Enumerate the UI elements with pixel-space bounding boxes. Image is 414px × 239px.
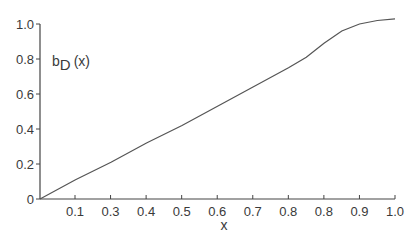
data-line: [40, 19, 395, 199]
x-axis-label: x: [221, 217, 228, 233]
x-tick-label: 0.8: [279, 204, 297, 219]
y-label-sub: D: [60, 56, 71, 73]
x-tick-label: 0.9: [350, 204, 368, 219]
y-axis: 00.20.40.60.81.0: [16, 17, 40, 207]
x-tick-label: 0.7: [244, 204, 262, 219]
y-tick-label: 0.6: [16, 87, 34, 102]
x-axis: 0.10.30.40.50.60.70.80.80.91.0: [40, 195, 404, 219]
chart: 00.20.40.60.81.0 0.10.30.40.50.60.70.80.…: [0, 0, 414, 239]
y-label-arg: (x): [74, 53, 90, 69]
x-tick-label: 1.0: [386, 204, 404, 219]
x-tick-label: 0.5: [173, 204, 191, 219]
y-tick-label: 0: [27, 192, 34, 207]
x-tick-label: 0.8: [315, 204, 333, 219]
y-tick-label: 0.4: [16, 122, 34, 137]
x-tick-label: 0.3: [102, 204, 120, 219]
y-label-base: b: [52, 53, 60, 69]
x-tick-label: 0.1: [66, 204, 84, 219]
y-tick-label: 0.8: [16, 52, 34, 67]
x-tick-label: 0.4: [137, 204, 155, 219]
y-tick-label: 0.2: [16, 157, 34, 172]
y-axis-label: bD(x): [52, 53, 90, 73]
y-tick-label: 1.0: [16, 17, 34, 32]
